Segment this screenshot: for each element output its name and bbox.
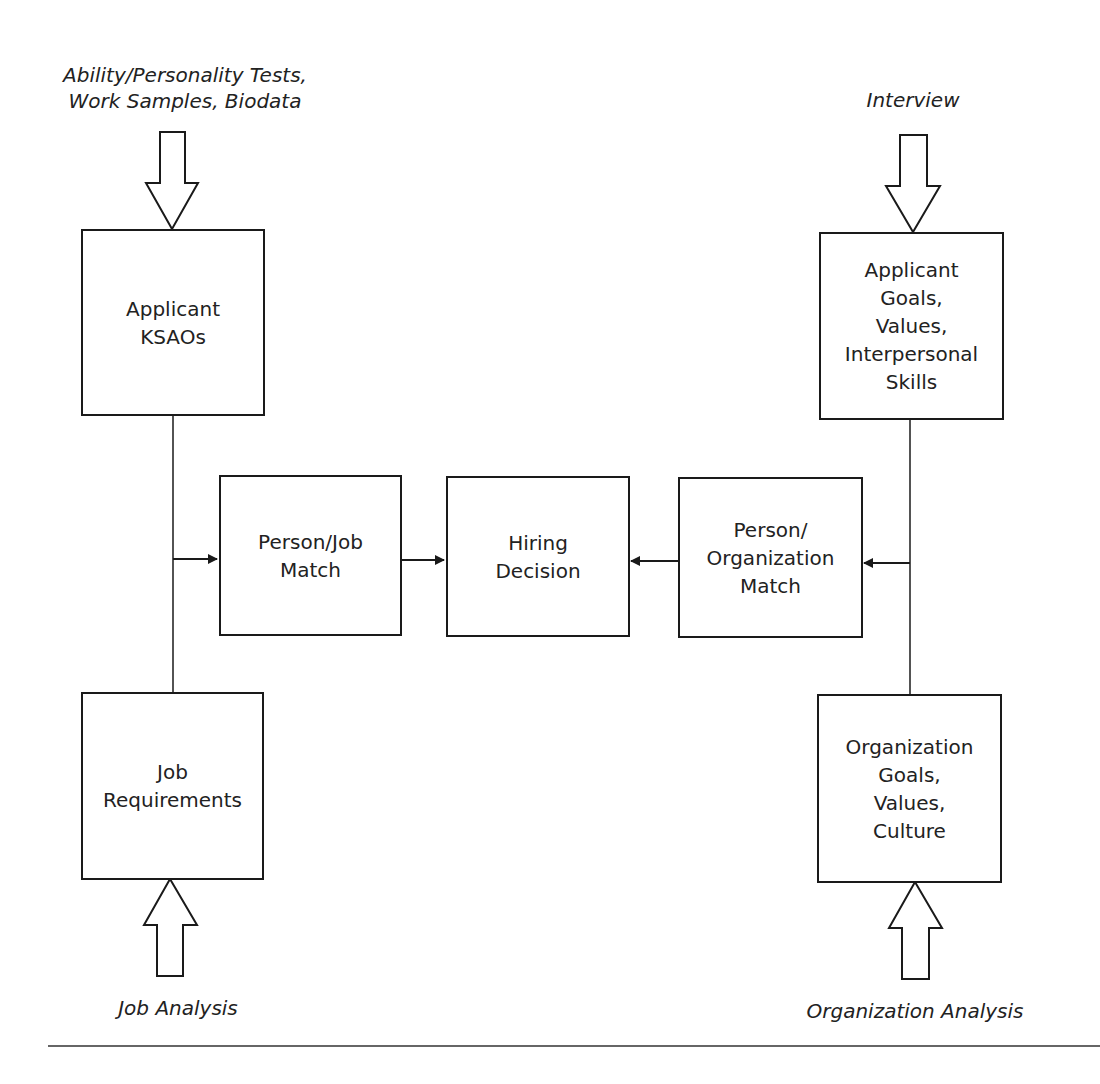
box-applicant-goals-values-text: Applicant Goals, Values, Interpersonal S… <box>845 256 978 396</box>
block-arrow-up-icon <box>144 879 197 976</box>
box-applicant-ksaos-text: Applicant KSAOs <box>126 295 220 351</box>
box-person-org-match: Person/ Organization Match <box>678 477 863 638</box>
block-arrow-up-icon <box>889 882 942 979</box>
label-tests-worksamples-biodata: Ability/Personality Tests, Work Samples,… <box>40 62 330 114</box>
box-hiring-decision: Hiring Decision <box>446 476 630 637</box>
box-person-org-match-text: Person/ Organization Match <box>707 516 835 600</box>
label-organization-analysis: Organization Analysis <box>780 998 1050 1024</box>
box-applicant-goals-values: Applicant Goals, Values, Interpersonal S… <box>819 232 1004 420</box>
label-interview: Interview <box>813 87 1013 113</box>
box-job-requirements: Job Requirements <box>81 692 264 880</box>
block-arrow-down-icon <box>146 132 198 229</box>
box-job-requirements-text: Job Requirements <box>103 758 242 814</box>
box-applicant-ksaos: Applicant KSAOs <box>81 229 265 416</box>
block-arrow-down-icon <box>886 135 940 232</box>
box-organization-goals-values: Organization Goals, Values, Culture <box>817 694 1002 883</box>
box-person-job-match-text: Person/Job Match <box>258 528 363 584</box>
box-person-job-match: Person/Job Match <box>219 475 402 636</box>
box-hiring-decision-text: Hiring Decision <box>495 529 580 585</box>
box-organization-goals-values-text: Organization Goals, Values, Culture <box>846 733 974 845</box>
label-job-analysis: Job Analysis <box>78 995 278 1021</box>
